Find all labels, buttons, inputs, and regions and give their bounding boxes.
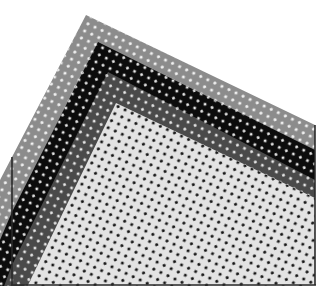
- polka-dot-sheets-photo: [0, 0, 334, 297]
